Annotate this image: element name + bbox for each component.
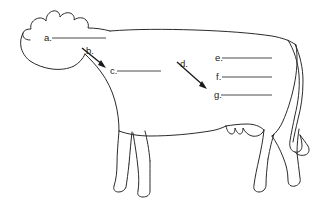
- cow-diagram: a. b. c. d. e. f. g.: [0, 0, 325, 206]
- label-letter-b: b.: [86, 45, 94, 56]
- label-letter-c: c.: [110, 65, 117, 76]
- label-letter-f: f.: [216, 71, 221, 82]
- worksheet-canvas: a. b. c. d. e. f. g.: [0, 0, 325, 206]
- label-letter-d: d.: [180, 58, 188, 69]
- label-letter-a: a.: [44, 32, 52, 43]
- label-letter-g: g.: [214, 89, 222, 100]
- cow-outline-icon: [21, 11, 309, 197]
- label-letter-e: e.: [215, 52, 223, 63]
